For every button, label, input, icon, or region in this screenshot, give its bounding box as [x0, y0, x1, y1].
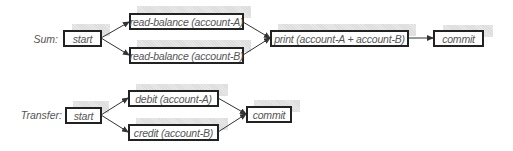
node-sum-read-balance-b: read-balance (account-B)	[129, 47, 244, 64]
edge-start-credit	[101, 115, 128, 132]
edge-read-a-print	[243, 22, 270, 38]
node-sum-start: start	[63, 30, 102, 47]
edge-debit-commit	[218, 98, 246, 114]
edge-start-read-b	[101, 38, 129, 55]
node-transfer-debit: debit (account-A)	[128, 90, 219, 107]
edge-start-debit	[101, 98, 128, 115]
edge-credit-commit	[218, 114, 246, 132]
diagram-canvas: Sum: start read-balance (account-A) read…	[0, 0, 513, 151]
edge-start-read-a	[101, 22, 129, 38]
node-sum-read-balance-a: read-balance (account-A)	[129, 13, 244, 30]
edge-read-b-print	[243, 38, 270, 55]
node-transfer-start: start	[65, 107, 102, 124]
node-sum-print: print (account-A + account-B)	[270, 30, 409, 47]
node-transfer-credit: credit (account-B)	[128, 124, 219, 141]
node-transfer-commit: commit	[246, 106, 292, 123]
edges-layer	[0, 0, 513, 151]
row-label-sum: Sum:	[20, 33, 58, 45]
node-sum-commit: commit	[433, 30, 484, 47]
row-label-transfer: Transfer:	[10, 109, 62, 121]
